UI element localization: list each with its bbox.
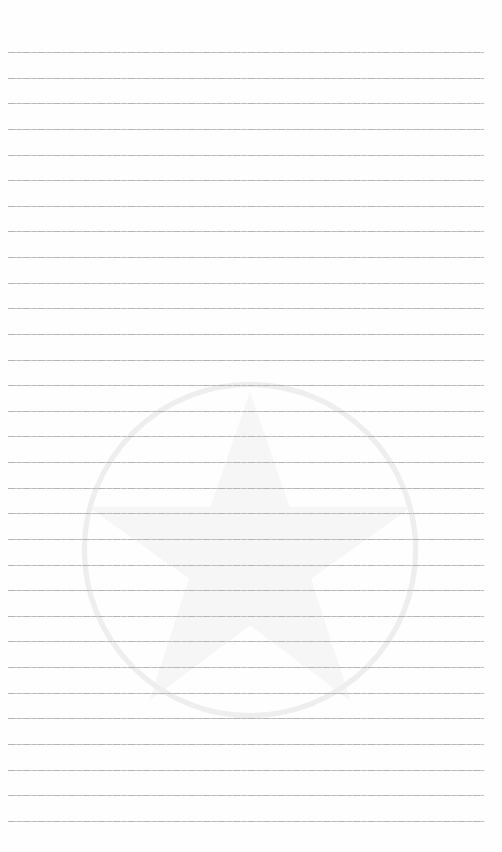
- ruled-line: [8, 565, 484, 566]
- ruled-line: [8, 667, 484, 668]
- ruled-line: [8, 795, 484, 796]
- star-emblem-icon: [70, 370, 430, 730]
- ruled-line: [8, 283, 484, 284]
- ruled-line: [8, 821, 484, 822]
- ruled-line: [8, 539, 484, 540]
- ruled-line: [8, 385, 484, 386]
- ruled-line: [8, 513, 484, 514]
- ruled-line: [8, 78, 484, 79]
- ruled-line: [8, 770, 484, 771]
- ruled-line: [8, 641, 484, 642]
- ruled-line: [8, 718, 484, 719]
- ruled-line: [8, 693, 484, 694]
- lined-paper-page: [0, 0, 502, 852]
- ruled-line: [8, 308, 484, 309]
- ruled-line: [8, 155, 484, 156]
- ruled-line: [8, 206, 484, 207]
- ruled-line: [8, 231, 484, 232]
- ruled-line: [8, 103, 484, 104]
- ruled-line: [8, 488, 484, 489]
- ruled-line: [8, 590, 484, 591]
- ruled-line: [8, 129, 484, 130]
- ruled-line: [8, 257, 484, 258]
- ruled-line: [8, 462, 484, 463]
- ruled-line: [8, 334, 484, 335]
- ruled-line: [8, 744, 484, 745]
- ruled-line: [8, 436, 484, 437]
- ruled-line: [8, 360, 484, 361]
- ruled-line: [8, 616, 484, 617]
- ruled-line: [8, 52, 484, 53]
- ruled-line: [8, 180, 484, 181]
- ruled-line: [8, 411, 484, 412]
